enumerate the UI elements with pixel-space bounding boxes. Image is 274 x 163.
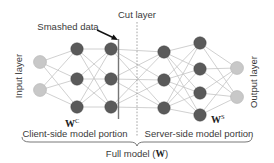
node-client-hidden-1 <box>71 101 83 113</box>
node-client-hidden-2 <box>105 43 117 55</box>
output-layer-label: Output layer <box>248 56 259 108</box>
node-client-hidden-2 <box>105 101 117 113</box>
node-client-hidden-2 <box>105 73 117 85</box>
node-server-hidden-1 <box>158 102 170 114</box>
node-server-hidden-2 <box>194 87 206 99</box>
network-edges <box>40 43 237 115</box>
node-output <box>231 91 244 104</box>
split-learning-diagram: Cut layer Smashed data Input layer Outpu… <box>0 0 274 163</box>
cut-layer-label: Cut layer <box>118 9 156 20</box>
node-server-hidden-1 <box>158 46 170 58</box>
node-input <box>34 56 47 69</box>
node-client-hidden-1 <box>71 73 83 85</box>
smashed-data-arrow-icon <box>97 30 118 40</box>
node-server-hidden-2 <box>194 63 206 75</box>
node-server-hidden-1 <box>158 74 170 86</box>
server-weights-label: WS <box>211 113 225 125</box>
node-client-hidden-1 <box>71 43 83 55</box>
smashed-data-label: Smashed data <box>37 21 99 32</box>
input-layer-label: Input layer <box>13 54 24 98</box>
full-model-label: Full model (W) <box>106 148 168 159</box>
server-portion-label: Server-side model portion <box>145 128 254 139</box>
node-server-hidden-2 <box>194 109 206 121</box>
node-output <box>231 62 244 75</box>
node-input <box>34 84 47 97</box>
node-server-hidden-2 <box>194 37 206 49</box>
client-portion-label: Client-side model portion <box>22 128 127 139</box>
